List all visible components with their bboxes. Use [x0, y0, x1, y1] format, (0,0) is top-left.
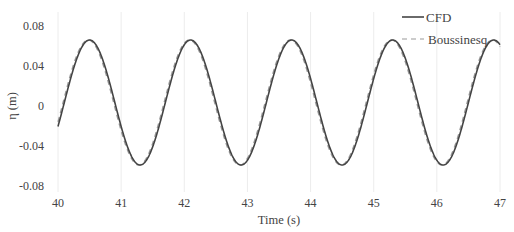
x-tick-label: 46 — [431, 196, 443, 210]
wave-elevation-chart: 0.080.040-0.04-0.08 4041424344454647 η (… — [0, 0, 514, 232]
x-tick-label: 40 — [52, 196, 64, 210]
y-tick-label: 0.08 — [23, 19, 44, 33]
x-tick-label: 47 — [494, 196, 506, 210]
x-tick-label: 42 — [178, 196, 190, 210]
x-tick-label: 44 — [305, 196, 317, 210]
x-tick-label: 43 — [241, 196, 253, 210]
x-axis-label: Time (s) — [258, 213, 300, 227]
y-axis-label: η (m) — [5, 92, 19, 120]
series-lines — [58, 40, 500, 165]
y-tick-label: -0.08 — [19, 179, 44, 193]
series-line-cfd — [58, 40, 500, 165]
legend: CFD Boussinesq — [402, 10, 488, 47]
x-axis-ticks: 4041424344454647 — [52, 196, 506, 210]
x-tick-label: 45 — [368, 196, 380, 210]
y-tick-label: 0.04 — [23, 59, 44, 73]
y-tick-label: 0 — [38, 99, 44, 113]
x-tick-label: 41 — [115, 196, 127, 210]
y-tick-label: -0.04 — [19, 139, 44, 153]
legend-label-boussinesq: Boussinesq — [428, 32, 488, 47]
y-axis-ticks: 0.080.040-0.04-0.08 — [19, 19, 44, 193]
legend-label-cfd: CFD — [426, 10, 451, 25]
